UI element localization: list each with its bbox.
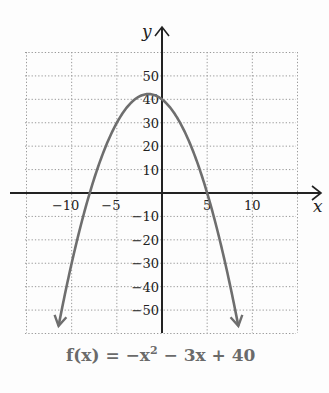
y-tick-label: −50 <box>132 303 159 318</box>
x-tick-label: −5 <box>101 198 120 213</box>
function-equation: f(x) = −x2 − 3x + 40 <box>66 344 256 365</box>
y-tick-label: −20 <box>132 233 159 248</box>
y-tick-label: −30 <box>132 256 159 271</box>
y-tick-label: 50 <box>142 69 159 84</box>
y-axis-label: y <box>141 21 152 41</box>
x-axis-label: x <box>313 196 323 216</box>
y-tick-label: −40 <box>132 280 159 295</box>
axes <box>10 27 321 333</box>
y-tick-label: 20 <box>142 139 159 154</box>
x-tick-label: 10 <box>244 198 261 213</box>
y-tick-label: −10 <box>132 209 159 224</box>
y-tick-label: 30 <box>142 116 159 131</box>
chart: −10−55105040302010−10−20−30−40−50 y x f(… <box>0 0 329 393</box>
y-tick-label: 10 <box>142 163 159 178</box>
x-tick-label: −10 <box>52 198 79 213</box>
